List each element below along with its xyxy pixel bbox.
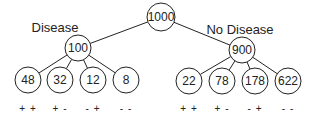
- root-node-label: 1000: [148, 11, 175, 23]
- edge-branch-0-leaf-2: [84, 60, 88, 68]
- edge-branch-1-leaf-1: [229, 61, 235, 70]
- test-result-sign: + -: [215, 104, 230, 114]
- leaf-node-label: 22: [182, 75, 195, 87]
- leaf-node-label: 12: [86, 74, 99, 86]
- branch-node-label: 100: [68, 42, 88, 54]
- branch-label: Disease: [32, 21, 79, 34]
- branch-label: No Disease: [206, 23, 273, 36]
- leaf-node-label: 32: [53, 74, 66, 86]
- test-result-sign: + -: [53, 104, 68, 114]
- branch-node-label: 900: [232, 44, 252, 56]
- edge-branch-1-leaf-2: [247, 62, 250, 69]
- test-result-sign: - -: [120, 104, 132, 114]
- test-result-sign: - -: [282, 104, 294, 114]
- test-result-sign: + +: [19, 104, 36, 114]
- test-result-sign: - +: [248, 104, 263, 114]
- leaf-node-label: 78: [215, 75, 228, 87]
- leaf-node-label: 178: [245, 75, 265, 87]
- edge-root-to-0: [90, 22, 148, 44]
- test-result-sign: + +: [180, 104, 197, 114]
- edge-branch-0-leaf-1: [66, 59, 71, 68]
- leaf-node-label: 8: [123, 74, 130, 86]
- test-result-sign: - +: [86, 104, 101, 114]
- leaf-node-label: 48: [21, 74, 34, 86]
- leaf-node-label: 622: [278, 75, 298, 87]
